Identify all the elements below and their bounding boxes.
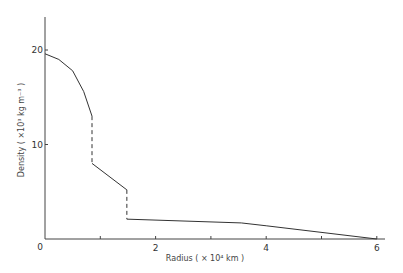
series-core (45, 54, 92, 116)
series-envelope (127, 219, 377, 239)
series-mantle (92, 163, 127, 189)
density-profile (45, 54, 377, 239)
y-tick-label: 10 (32, 140, 44, 150)
x-tick-label: 4 (263, 243, 269, 253)
y-tick-label: 20 (32, 45, 44, 55)
y-axis-label: Density ( ×10³ kg m⁻³ ) (17, 83, 26, 177)
y-ticks: 1020 (32, 45, 48, 150)
origin-label: 0 (37, 242, 43, 252)
axes (45, 17, 385, 239)
x-tick-label: 2 (153, 243, 159, 253)
density-radius-chart: 246 1020 0 Radius ( × 10⁴ km ) Density (… (0, 0, 403, 273)
x-tick-label: 6 (374, 243, 380, 253)
x-axis-label: Radius ( × 10⁴ km ) (166, 254, 244, 263)
